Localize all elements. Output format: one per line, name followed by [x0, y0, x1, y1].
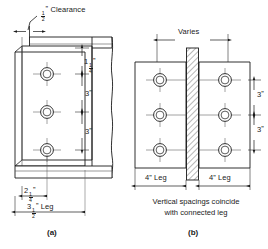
note-line-2: with connected leg: [135, 208, 257, 217]
caption-b: (b): [188, 228, 198, 237]
angle-corner-bottom: [15, 160, 22, 166]
bottom-flange-outline: [15, 166, 112, 178]
dim-a-h2: 312” Leg: [27, 202, 53, 219]
note-line-1: Vertical spacings coincide: [135, 197, 257, 206]
leg-label-left: 4” Leg: [145, 174, 167, 182]
caption-a: (a): [47, 228, 57, 237]
central-web-section: [187, 48, 199, 180]
angle-corner-top: [15, 46, 22, 52]
dim-a-h1: 214”: [24, 186, 35, 203]
break-line-right: [111, 37, 112, 178]
dim-b-v1: 3”: [257, 90, 264, 99]
varies-label: Varies: [178, 28, 199, 36]
angle-leg-face: [22, 46, 92, 160]
dim-a-v3: 3”: [85, 127, 92, 136]
dim-a-v2: 3”: [85, 89, 92, 98]
panel-b-drawing: [135, 34, 261, 190]
dim-b-v2: 3”: [257, 125, 264, 134]
clearance-label: 12” Clearance: [41, 5, 85, 22]
dim-a-v1: 114”: [84, 57, 95, 74]
leg-label-right: 4” Leg: [209, 174, 231, 182]
